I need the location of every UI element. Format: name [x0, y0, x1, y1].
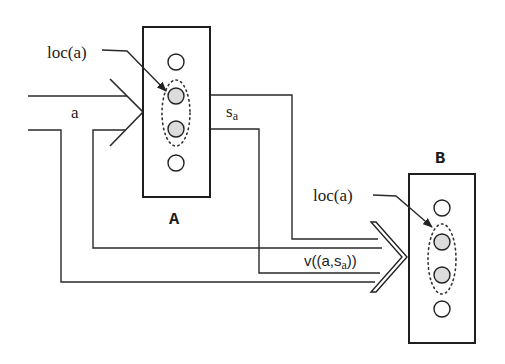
- slot-b-4: [434, 301, 450, 317]
- slot-b-1: [434, 200, 450, 216]
- slot-a-4: [168, 155, 184, 171]
- loc-label-a: loc(a): [47, 43, 87, 62]
- slot-b-2: [434, 234, 450, 250]
- input-label-a: a: [71, 103, 79, 122]
- loc-label-b: loc(a): [313, 186, 353, 205]
- state-label-sa: sa: [226, 102, 239, 123]
- hollow-arrowhead: [371, 222, 407, 292]
- box-b-label: B: [435, 149, 445, 168]
- value-label: v((a,sa)): [304, 252, 357, 272]
- diagram-canvas: loc(a) a sa A B loc(a) v((a,sa)): [0, 0, 505, 364]
- slot-b-3: [434, 267, 450, 283]
- slot-a-3: [168, 121, 184, 137]
- box-a-label: A: [169, 210, 180, 229]
- box-a: [143, 27, 210, 197]
- input-chevron-a: [110, 79, 143, 146]
- box-b: [409, 174, 475, 343]
- slot-a-1: [168, 54, 184, 70]
- slot-a-2: [168, 88, 184, 104]
